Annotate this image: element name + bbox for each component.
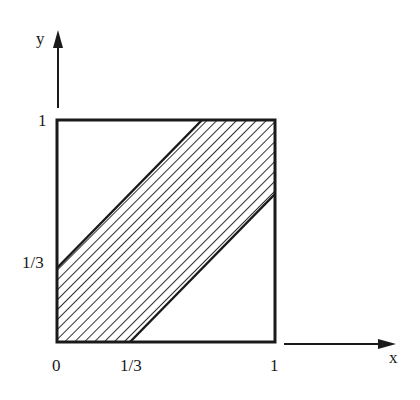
y-tick-1: 1 <box>38 111 47 130</box>
y-tick-1-3: 1/3 <box>22 253 44 272</box>
x-tick-0: 0 <box>52 356 61 375</box>
x-axis-arrow <box>284 339 396 349</box>
x-axis-label: x <box>389 348 398 367</box>
x-tick-1: 1 <box>270 356 279 375</box>
diagram-canvas: y x 1 1/3 0 1/3 1 <box>0 0 420 400</box>
y-axis-label: y <box>36 29 45 48</box>
y-axis-arrow <box>53 30 63 108</box>
x-tick-1-3: 1/3 <box>120 356 142 375</box>
hatched-region <box>57 120 275 342</box>
